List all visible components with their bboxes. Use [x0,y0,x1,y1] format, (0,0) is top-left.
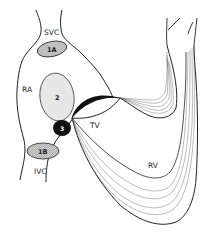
outflow-right [194,18,197,45]
label-ivc: IVC [34,167,47,176]
label-ra: RA [22,85,33,94]
label-region-1b: 1B [38,148,48,156]
label-svc: SVC [44,28,59,37]
heart-diagram: SVC RA IVC TV RV 1A 1B 2 3 4 [0,0,215,247]
rv-lower-fibers [72,47,194,215]
outflow-curl-left [168,18,180,30]
label-region-3: 3 [60,125,64,132]
rv-upper-bowl [120,45,177,118]
label-region-4: 4 [85,107,89,114]
rv-upper-fibers [120,52,173,113]
label-region-1a: 1A [47,46,57,54]
rv-outer-wall [72,45,198,224]
outflow-curl-right [188,22,193,34]
label-tv: TV [89,121,101,130]
label-region-2: 2 [55,94,60,102]
label-rv: RV [148,161,159,170]
